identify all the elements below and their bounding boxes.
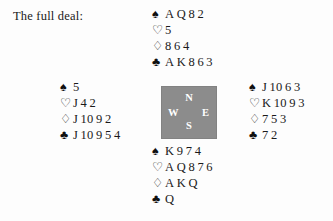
- hand-west-clubs-cards: J10954: [73, 127, 121, 143]
- card-rank: A: [165, 7, 174, 21]
- card-rank: 4: [81, 96, 88, 110]
- card-rank: 2: [271, 128, 278, 142]
- hand-east: ♠ J1063 ♡ K1093 ♢ 753 ♣ 72: [249, 79, 305, 143]
- bridge-deal-diagram: The full deal: ♠ AQ82 ♡ 5 ♢ 864 ♣ AK863 …: [0, 0, 333, 221]
- club-icon: ♣: [152, 54, 165, 70]
- card-rank: 4: [195, 144, 202, 158]
- card-rank: 9: [96, 128, 103, 142]
- spade-icon: ♠: [152, 143, 165, 159]
- card-rank: 4: [114, 128, 121, 142]
- card-rank: 10: [274, 96, 287, 110]
- card-rank: 6: [174, 39, 181, 53]
- hand-east-hearts-cards: K1093: [262, 95, 305, 111]
- card-rank: 8: [188, 7, 195, 21]
- hand-east-hearts-row: ♡ K1093: [249, 95, 305, 111]
- hand-south-spades-row: ♠ K974: [152, 143, 213, 159]
- card-rank: 8: [188, 160, 195, 174]
- card-rank: J: [73, 112, 78, 126]
- card-rank: K: [165, 144, 174, 158]
- hand-south-clubs-row: ♣ Q: [152, 191, 213, 207]
- hand-south-clubs-cards: Q: [165, 191, 174, 207]
- card-rank: J: [262, 80, 267, 94]
- hand-east-diamonds-cards: 753: [262, 111, 286, 127]
- heart-icon: ♡: [152, 22, 165, 38]
- compass-label-south: S: [186, 121, 192, 132]
- diamond-icon: ♢: [249, 111, 262, 127]
- card-rank: 3: [298, 96, 305, 110]
- card-rank: 8: [165, 39, 172, 53]
- compass-label-north: N: [185, 93, 193, 104]
- club-icon: ♣: [60, 127, 73, 143]
- card-rank: 8: [188, 55, 195, 69]
- card-rank: 5: [165, 23, 172, 37]
- diamond-icon: ♢: [152, 175, 165, 191]
- heart-icon: ♡: [60, 95, 73, 111]
- card-rank: 10: [81, 112, 94, 126]
- card-rank: J: [73, 128, 78, 142]
- hand-west-clubs-row: ♣ J10954: [60, 127, 121, 143]
- card-rank: 6: [206, 160, 213, 174]
- hand-east-spades-cards: J1063: [262, 79, 301, 95]
- card-rank: 2: [90, 96, 97, 110]
- club-icon: ♣: [249, 127, 262, 143]
- card-rank: 7: [262, 128, 269, 142]
- hand-west-spades-cards: 5: [73, 79, 80, 95]
- spade-icon: ♠: [60, 79, 73, 95]
- card-rank: 9: [177, 144, 184, 158]
- card-rank: Q: [177, 7, 186, 21]
- diamond-icon: ♢: [60, 111, 73, 127]
- hand-south-diamonds-cards: AKQ: [165, 175, 198, 191]
- card-rank: Q: [165, 192, 174, 206]
- card-rank: 5: [73, 80, 80, 94]
- card-rank: 7: [262, 112, 269, 126]
- club-icon: ♣: [152, 191, 165, 207]
- card-rank: 10: [81, 128, 94, 142]
- compass-label-west: W: [168, 107, 179, 118]
- card-rank: 2: [105, 112, 112, 126]
- card-rank: A: [165, 160, 174, 174]
- card-rank: 3: [280, 112, 287, 126]
- hand-north-clubs-cards: AK863: [165, 54, 213, 70]
- card-rank: 9: [96, 112, 103, 126]
- hand-north-hearts-cards: 5: [165, 22, 172, 38]
- hand-east-spades-row: ♠ J1063: [249, 79, 305, 95]
- card-rank: A: [165, 176, 174, 190]
- hand-east-clubs-row: ♣ 72: [249, 127, 305, 143]
- hand-north-spades-row: ♠ AQ82: [152, 6, 213, 22]
- card-rank: J: [73, 96, 78, 110]
- hand-west: ♠ 5 ♡ J42 ♢ J1092 ♣ J10954: [60, 79, 121, 143]
- spade-icon: ♠: [249, 79, 262, 95]
- hand-north-diamonds-cards: 864: [165, 38, 189, 54]
- card-rank: 5: [105, 128, 112, 142]
- hand-south-diamonds-row: ♢ AKQ: [152, 175, 213, 191]
- card-rank: 10: [270, 80, 283, 94]
- hand-east-diamonds-row: ♢ 753: [249, 111, 305, 127]
- hand-south: ♠ K974 ♡ AQ876 ♢ AKQ ♣ Q: [152, 143, 213, 207]
- hand-west-diamonds-row: ♢ J1092: [60, 111, 121, 127]
- hand-west-diamonds-cards: J1092: [73, 111, 112, 127]
- card-rank: Q: [188, 176, 197, 190]
- hand-north-clubs-row: ♣ AK863: [152, 54, 213, 70]
- card-rank: 4: [183, 39, 190, 53]
- compass-label-east: E: [202, 107, 209, 118]
- hand-south-spades-cards: K974: [165, 143, 201, 159]
- card-rank: K: [177, 176, 186, 190]
- heart-icon: ♡: [249, 95, 262, 111]
- card-rank: 6: [285, 80, 292, 94]
- hand-south-hearts-row: ♡ AQ876: [152, 159, 213, 175]
- card-rank: 3: [206, 55, 213, 69]
- hand-north-diamonds-row: ♢ 864: [152, 38, 213, 54]
- card-rank: K: [177, 55, 186, 69]
- card-rank: 3: [294, 80, 301, 94]
- hand-north: ♠ AQ82 ♡ 5 ♢ 864 ♣ AK863: [152, 6, 213, 70]
- deal-caption: The full deal:: [13, 9, 83, 24]
- hand-south-hearts-cards: AQ876: [165, 159, 213, 175]
- spade-icon: ♠: [152, 6, 165, 22]
- card-rank: 5: [271, 112, 278, 126]
- card-rank: 7: [197, 160, 204, 174]
- card-rank: Q: [177, 160, 186, 174]
- card-rank: 2: [197, 7, 204, 21]
- card-rank: 7: [186, 144, 193, 158]
- hand-east-clubs-cards: 72: [262, 127, 278, 143]
- card-rank: A: [165, 55, 174, 69]
